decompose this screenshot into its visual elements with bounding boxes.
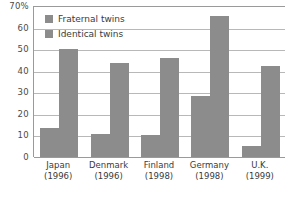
bar (91, 134, 110, 157)
x-axis-category-name: Denmark (83, 160, 133, 171)
x-axis-category-name: Japan (33, 160, 83, 171)
y-axis: 010203040506070% (0, 0, 32, 207)
x-axis-category-name: Germany (184, 160, 234, 171)
legend-label: Fraternal twins (58, 14, 125, 24)
bar (261, 66, 280, 157)
legend-swatch-icon (45, 30, 53, 38)
chart-legend: Fraternal twinsIdentical twins (45, 13, 125, 39)
y-axis-tick-label: 0 (23, 153, 29, 162)
bar-chart: 010203040506070% Fraternal twinsIdentica… (0, 0, 291, 207)
bar (59, 49, 78, 157)
legend-swatch-icon (45, 15, 53, 23)
x-axis-category-label: Denmark(1996) (83, 160, 133, 182)
legend-label: Identical twins (58, 29, 123, 39)
bar-group (191, 7, 229, 157)
x-axis-category-year: (1996) (83, 171, 133, 182)
x-axis-category-year: (1999) (235, 171, 285, 182)
x-axis-category-label: Germany(1998) (184, 160, 234, 182)
legend-item: Identical twins (45, 28, 125, 39)
bar (191, 96, 210, 157)
bar (210, 16, 229, 157)
x-axis-category-name: U.K. (235, 160, 285, 171)
bar (141, 135, 160, 157)
bar (40, 128, 59, 157)
x-axis-category-label: Finland(1998) (134, 160, 184, 182)
bar (110, 63, 129, 157)
y-axis-tick-label: 20 (18, 109, 29, 118)
y-axis-tick-label: 60 (18, 23, 29, 32)
x-axis-category-label: Japan(1996) (33, 160, 83, 182)
x-axis-category-year: (1998) (184, 171, 234, 182)
y-axis-tick-label: 10 (18, 131, 29, 140)
y-axis-tick-label: 40 (18, 66, 29, 75)
bar (242, 146, 261, 157)
bar-group (242, 7, 280, 157)
y-axis-tick-label: 30 (18, 88, 29, 97)
x-axis-category-name: Finland (134, 160, 184, 171)
x-axis-category-label: U.K.(1999) (235, 160, 285, 182)
x-axis: Japan(1996)Denmark(1996)Finland(1998)Ger… (33, 160, 285, 205)
y-axis-tick-label: 50 (18, 45, 29, 54)
bar (160, 58, 179, 157)
legend-item: Fraternal twins (45, 13, 125, 24)
gridline (34, 157, 285, 158)
bar-group (141, 7, 179, 157)
y-axis-tick-label: 70% (9, 2, 29, 11)
x-axis-category-year: (1998) (134, 171, 184, 182)
x-axis-category-year: (1996) (33, 171, 83, 182)
